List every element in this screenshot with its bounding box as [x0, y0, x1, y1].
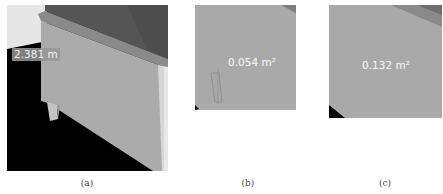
figure-panel-a: 2.381 m	[7, 5, 168, 171]
figure-panel-b: 0.054 m²	[195, 5, 296, 110]
caption-a: (a)	[81, 178, 93, 188]
distance-measurement-label: 2.381 m	[12, 48, 60, 61]
caption-c: (c)	[379, 178, 391, 188]
figure-panel-c: 0.132 m²	[329, 5, 442, 118]
scene-render-a	[7, 5, 168, 171]
caption-b: (b)	[242, 178, 255, 188]
area-measurement-label-b: 0.054 m²	[228, 57, 276, 68]
area-measurement-label-c: 0.132 m²	[362, 60, 410, 71]
